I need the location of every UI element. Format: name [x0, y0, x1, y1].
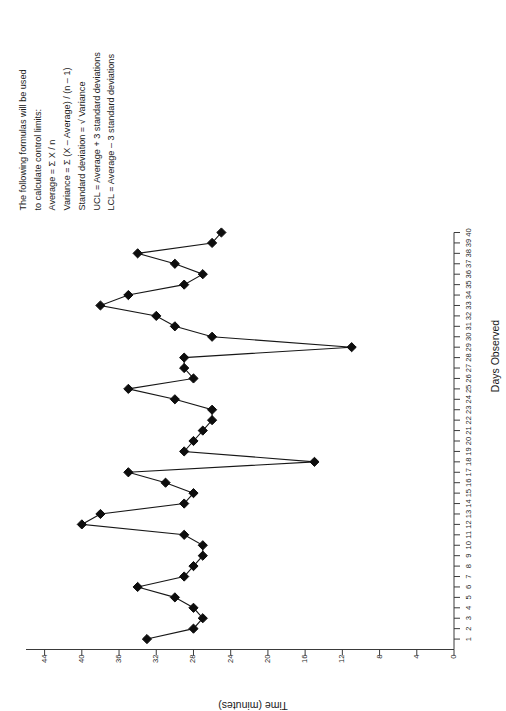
data-point-marker [170, 592, 179, 601]
data-point-marker [198, 551, 207, 560]
x-axis-tick-label: 25 [461, 384, 473, 392]
data-point-marker [180, 363, 189, 372]
data-point-marker [170, 394, 179, 403]
formula-notes-block: The following formulas will be used to c… [16, 14, 119, 210]
y-axis-tick-label: 12 [339, 649, 347, 662]
x-axis-tick-label: 12 [461, 520, 473, 528]
formula-variance: Variance = Σ (X – Average) / (n – 1) [60, 14, 75, 210]
x-axis-tick-label: 38 [461, 249, 473, 257]
y-axis-title: Time (minutes) [218, 700, 288, 711]
data-point-marker [161, 478, 170, 487]
x-axis-tick-label: 23 [461, 405, 473, 413]
data-point-marker [180, 530, 189, 539]
y-axis-tick-label: 40 [78, 649, 86, 662]
x-axis-tick-label: 21 [461, 426, 473, 434]
data-point-marker [310, 457, 319, 466]
x-axis-tick-label: 9 [461, 553, 473, 557]
formula-standard-deviation: Standard deviation = √ Variance [75, 14, 90, 210]
data-point-marker [170, 259, 179, 268]
data-point-marker [124, 467, 133, 476]
y-axis-tick-label: 8 [376, 649, 384, 658]
x-axis-tick-label: 32 [461, 311, 473, 319]
formula-lcl: LCL = Average – 3 standard deviations [104, 14, 119, 210]
y-axis-tick-label: 20 [264, 649, 272, 662]
formula-average: Average = Σ X / n [45, 14, 60, 210]
x-axis-tick-label: 14 [461, 499, 473, 507]
x-axis-tick-label: 22 [461, 415, 473, 423]
x-axis-tick-label: 31 [461, 322, 473, 330]
x-axis-tick-label: 28 [461, 353, 473, 361]
y-axis-tick-label: 44 [41, 649, 49, 662]
chart-axes [26, 232, 460, 655]
data-point-marker [189, 603, 198, 612]
data-point-marker [133, 582, 142, 591]
x-axis-tick-label: 5 [461, 595, 473, 599]
data-point-marker [347, 342, 356, 351]
x-axis-tick-label: 24 [461, 395, 473, 403]
data-point-marker [152, 311, 161, 320]
x-axis-tick-label: 11 [461, 530, 473, 538]
chart-series [77, 227, 356, 643]
data-point-marker [207, 405, 216, 414]
x-axis-tick-label: 30 [461, 332, 473, 340]
y-axis-tick-label: 0 [450, 649, 458, 658]
x-axis-tick-label: 36 [461, 269, 473, 277]
data-point-marker [207, 415, 216, 424]
control-chart-figure: 048121620242832364044 123456789101112131… [0, 0, 506, 711]
data-point-marker [124, 290, 133, 299]
x-axis-tick-label: 39 [461, 238, 473, 246]
x-axis-tick-label: 34 [461, 290, 473, 298]
x-axis-tick-label: 3 [461, 616, 473, 620]
x-axis-tick-label: 27 [461, 363, 473, 371]
x-axis-tick-label: 29 [461, 342, 473, 350]
y-axis-tick-label: 32 [152, 649, 160, 662]
formula-note-line-1: The following formulas will be used [16, 14, 31, 210]
formula-note-line-2: to calculate control limits: [31, 14, 46, 210]
data-point-marker [217, 227, 226, 236]
x-axis-tick-label: 4 [461, 605, 473, 609]
data-point-marker [170, 321, 179, 330]
x-axis-tick-label: 33 [461, 301, 473, 309]
data-point-marker [77, 519, 86, 528]
chart-stage: 048121620242832364044 123456789101112131… [0, 0, 506, 711]
x-axis-tick-label: 7 [461, 574, 473, 578]
x-axis-tick-label: 26 [461, 374, 473, 382]
data-point-marker [198, 269, 207, 278]
x-axis-tick-label: 1 [461, 636, 473, 640]
x-axis-tick-label: 37 [461, 259, 473, 267]
data-point-marker [124, 384, 133, 393]
data-point-marker [180, 280, 189, 289]
x-axis-tick-label: 2 [461, 626, 473, 630]
x-axis-tick-label: 18 [461, 457, 473, 465]
x-axis-tick-label: 10 [461, 541, 473, 549]
x-axis-tick-label: 13 [461, 509, 473, 517]
x-axis-tick-label: 6 [461, 584, 473, 588]
data-point-marker [180, 353, 189, 362]
y-axis-tick-label: 28 [190, 649, 198, 662]
x-axis-tick-label: 16 [461, 478, 473, 486]
data-point-marker [96, 509, 105, 518]
x-axis-title: Days Observed [490, 319, 501, 391]
x-axis-tick-label: 17 [461, 468, 473, 476]
y-axis-tick-label: 4 [413, 649, 421, 658]
formula-ucl: UCL = Average + 3 standard deviations [90, 14, 105, 210]
data-point-marker [189, 488, 198, 497]
x-axis-tick-label: 35 [461, 280, 473, 288]
x-axis-tick-label: 8 [461, 563, 473, 567]
y-axis-tick-label: 16 [301, 649, 309, 662]
x-axis-tick-label: 20 [461, 436, 473, 444]
data-point-marker [198, 540, 207, 549]
data-point-marker [133, 248, 142, 257]
y-axis-tick-label: 36 [115, 649, 123, 662]
data-point-marker [207, 332, 216, 341]
data-point-marker [96, 300, 105, 309]
data-point-marker [142, 634, 151, 643]
x-axis-tick-label: 40 [461, 228, 473, 236]
y-axis-tick-label: 24 [227, 649, 235, 662]
x-axis-tick-label: 15 [461, 488, 473, 496]
x-axis-tick-label: 19 [461, 447, 473, 455]
